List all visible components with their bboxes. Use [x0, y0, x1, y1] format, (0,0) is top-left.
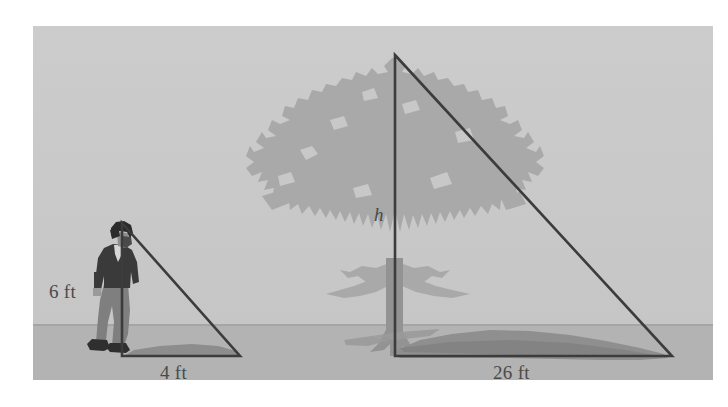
label-tree-height-variable: h: [374, 204, 384, 226]
scene-illustration: [0, 0, 728, 407]
label-person-height: 6 ft: [49, 281, 76, 303]
horizon-line: [33, 324, 713, 326]
figure-container: 6 ft 4 ft 26 ft h: [0, 0, 728, 407]
label-tree-shadow: 26 ft: [493, 362, 530, 384]
label-person-shadow: 4 ft: [160, 362, 187, 384]
